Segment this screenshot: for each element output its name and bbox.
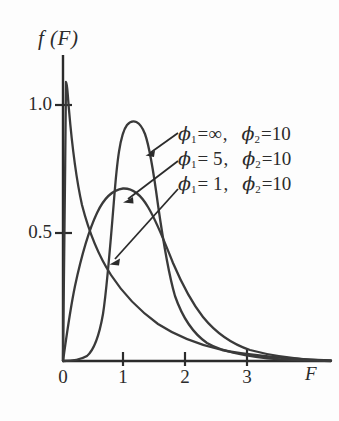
legend-separator: , — [223, 148, 228, 170]
phi2-value: =10 — [261, 123, 291, 145]
legend-phi2-term-5: ϕ2=10 — [242, 147, 291, 170]
phi2-value: =10 — [262, 148, 292, 170]
legend-phi1-term-5: ϕ1= 5 — [178, 147, 222, 170]
y-tick-label-1.0: 1.0 — [6, 93, 52, 115]
phi1-value: = 1 — [197, 173, 222, 195]
legend-row-phi1-5: ϕ1= 5 , ϕ2=10 — [178, 147, 291, 172]
leader-phi1-inf — [146, 133, 179, 157]
phi-subscript: 2 — [255, 183, 261, 195]
y-tick-label-0.5: 0.5 — [6, 221, 52, 243]
y-axis-label: f (F) — [38, 26, 78, 51]
phi-symbol: ϕ — [242, 172, 255, 194]
x-axis-label: F — [305, 363, 317, 385]
plot-canvas — [0, 0, 339, 421]
phi-symbol: ϕ — [178, 172, 191, 194]
phi2-value: =10 — [262, 173, 292, 195]
phi-subscript: 1 — [191, 133, 197, 145]
phi-symbol: ϕ — [178, 122, 191, 144]
x-tick-label-3: 3 — [234, 366, 260, 388]
phi-subscript: 1 — [191, 158, 197, 170]
legend-phi1-term-1: ϕ1= 1 — [178, 172, 222, 195]
phi1-value: =∞ — [197, 123, 221, 145]
legend-phi2-term-1: ϕ2=10 — [242, 172, 291, 195]
x-tick-label-1: 1 — [110, 366, 136, 388]
phi-symbol: ϕ — [242, 147, 255, 169]
phi-subscript: 1 — [191, 183, 197, 195]
phi-symbol: ϕ — [178, 147, 191, 169]
legend: ϕ1=∞ , ϕ2=10 ϕ1= 5 , ϕ2=10 ϕ1= 1 , ϕ2=10 — [178, 122, 291, 197]
legend-separator: , — [223, 123, 228, 145]
x-tick-label-2: 2 — [172, 366, 198, 388]
phi1-value: = 5 — [197, 148, 222, 170]
phi-symbol: ϕ — [241, 122, 254, 144]
legend-separator: , — [223, 173, 228, 195]
x-tick-label-0: 0 — [50, 366, 76, 388]
f-distribution-figure: f (F) F 1.0 0.5 0 1 2 3 ϕ1=∞ , ϕ2=10 ϕ1=… — [0, 0, 339, 421]
legend-row-phi1-1: ϕ1= 1 , ϕ2=10 — [178, 172, 291, 197]
phi-subscript: 2 — [254, 133, 260, 145]
legend-phi1-term-inf: ϕ1=∞ — [178, 122, 222, 145]
legend-phi2-term-inf: ϕ2=10 — [241, 122, 290, 145]
legend-row-phi1-inf: ϕ1=∞ , ϕ2=10 — [178, 122, 291, 147]
phi-subscript: 2 — [255, 158, 261, 170]
